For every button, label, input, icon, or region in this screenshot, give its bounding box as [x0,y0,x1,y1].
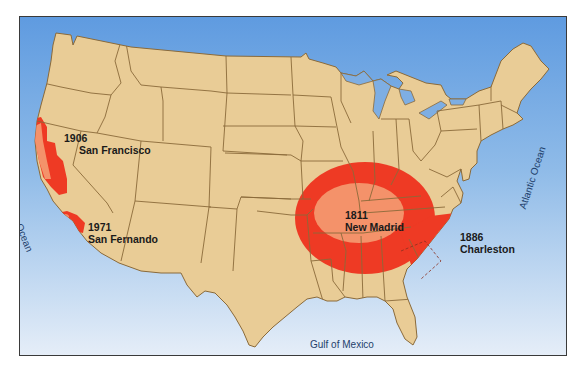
earthquake-name: San Francisco [64,144,151,156]
map-graphic [20,17,567,356]
label-san-fernando: 1971 San Fernando [88,221,158,245]
earthquake-year: 1906 [64,132,151,144]
label-san-francisco: 1906 San Francisco [64,132,151,156]
earthquake-year: 1811 [345,209,404,221]
earthquake-map: 1906 San Francisco 1971 San Fernando 181… [19,16,567,356]
label-gulf-of-mexico: Gulf of Mexico [310,339,374,350]
earthquake-year: 1886 [460,231,515,243]
label-new-madrid: 1811 New Madrid [345,209,404,233]
earthquake-name: San Fernando [88,233,158,245]
label-charleston: 1886 Charleston [460,231,515,255]
earthquake-name: Charleston [460,243,515,255]
earthquake-name: New Madrid [345,221,404,233]
earthquake-year: 1971 [88,221,158,233]
